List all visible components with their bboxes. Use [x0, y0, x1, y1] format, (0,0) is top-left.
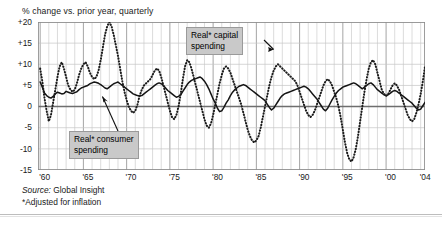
y-tick-0: 0 [2, 101, 32, 111]
callout-consumer-line2: spending [74, 145, 134, 156]
source-value: Global Insight [53, 185, 104, 195]
x-tick-85: '85 [255, 172, 266, 182]
y-tick-minus10: -10 [2, 144, 32, 154]
chart-figure: % change vs. prior year, quarterly +20+1… [0, 0, 442, 225]
source-label: Source: [22, 185, 51, 195]
y-tick-plus5: +5 [2, 80, 32, 90]
x-tick-65: '65 [82, 172, 93, 182]
footnote: *Adjusted for inflation [22, 197, 101, 207]
y-tick-minus5: -5 [2, 122, 32, 132]
x-tick-60: '60 [39, 172, 50, 182]
divider-rule [0, 214, 442, 215]
callout-consumer-spending: Real* consumer spending [69, 131, 139, 159]
x-tick-04: '04 [420, 172, 431, 182]
x-tick-00: '00 [385, 172, 396, 182]
y-tick-plus20: +20 [2, 17, 32, 27]
callout-capital-spending: Real* capital spending [186, 27, 243, 55]
y-tick-plus10: +10 [2, 59, 32, 69]
x-tick-95: '95 [342, 172, 353, 182]
callout-capital-line1: Real* capital [191, 30, 238, 41]
callout-capital-line2: spending [191, 41, 238, 52]
divider-rule-shadow [0, 216, 442, 217]
y-tick-minus15: -15 [2, 165, 32, 175]
source-line: Source: Global Insight [22, 185, 104, 195]
x-tick-90: '90 [299, 172, 310, 182]
callout-consumer-line1: Real* consumer [74, 134, 134, 145]
x-tick-80: '80 [212, 172, 223, 182]
y-tick-plus15: +15 [2, 38, 32, 48]
x-tick-70: '70 [126, 172, 137, 182]
x-tick-75: '75 [169, 172, 180, 182]
chart-subtitle: % change vs. prior year, quarterly [22, 6, 153, 16]
